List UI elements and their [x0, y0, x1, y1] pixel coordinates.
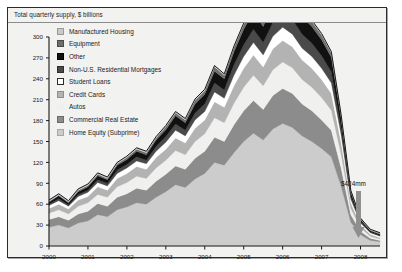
legend-item: Autos: [57, 101, 161, 114]
legend-label: Equipment: [69, 40, 100, 47]
x-tick-label: 2000: [42, 253, 56, 259]
legend-swatch: [57, 66, 64, 73]
legend-item: Manufactured Housing: [57, 25, 161, 38]
legend-item: Credit Cards: [57, 88, 161, 101]
x-tick-label: 2001: [81, 253, 95, 259]
legend-item: Equipment: [57, 38, 161, 51]
x-tick-label: 2005: [237, 253, 251, 259]
chart-legend: Manufactured HousingEquipmentOtherNon-U.…: [57, 25, 161, 138]
y-tick-label: 240: [33, 75, 44, 82]
legend-label: Credit Cards: [69, 91, 105, 98]
chart-card: Total quarterly supply, $ billions 03060…: [7, 7, 387, 258]
legend-swatch: [57, 40, 64, 47]
legend-swatch: [57, 91, 64, 98]
x-tick-label: 2003: [159, 253, 173, 259]
legend-label: Manufactured Housing: [69, 28, 134, 35]
legend-item: Home Equity (Subprime): [57, 126, 161, 139]
chart-title-bar: Total quarterly supply, $ billions: [8, 8, 386, 23]
y-tick-label: 150: [33, 138, 44, 145]
x-tick-label: 2008: [354, 253, 368, 259]
value-annotation: $424mm: [341, 180, 366, 187]
y-tick-label: 180: [33, 117, 44, 124]
legend-item: Student Loans: [57, 75, 161, 88]
legend-swatch: [57, 116, 64, 123]
chart-title: Total quarterly supply, $ billions: [14, 11, 103, 18]
legend-swatch: [57, 129, 64, 136]
y-tick-label: 0: [40, 242, 44, 249]
y-tick-label: 300: [33, 33, 44, 40]
legend-label: Student Loans: [69, 78, 110, 85]
x-tick-label: 2004: [198, 253, 212, 259]
y-tick-label: 270: [33, 54, 44, 61]
x-tick-label: 2006: [276, 253, 290, 259]
legend-swatch: [57, 53, 64, 60]
legend-label: Other: [69, 53, 85, 60]
legend-label: Home Equity (Subprime): [69, 129, 139, 136]
legend-item: Other: [57, 50, 161, 63]
legend-label: Non-U.S. Residential Mortgages: [69, 66, 161, 73]
y-tick-label: 60: [36, 200, 43, 207]
y-tick-label: 210: [33, 96, 44, 103]
legend-label: Commercial Real Estate: [69, 116, 138, 123]
legend-item: Commercial Real Estate: [57, 113, 161, 126]
legend-item: Non-U.S. Residential Mortgages: [57, 63, 161, 76]
x-tick-label: 2007: [315, 253, 329, 259]
y-tick-label: 120: [33, 159, 44, 166]
y-tick-label: 30: [36, 221, 43, 228]
legend-swatch: [57, 103, 64, 110]
legend-swatch: [57, 78, 64, 85]
legend-label: Autos: [69, 103, 85, 110]
legend-swatch: [57, 28, 64, 35]
x-tick-label: 2002: [120, 253, 134, 259]
y-tick-label: 90: [36, 180, 43, 187]
